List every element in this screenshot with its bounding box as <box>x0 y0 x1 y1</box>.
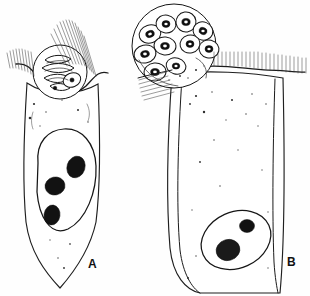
chromatin-body <box>240 220 255 233</box>
panel-a-label: A <box>88 257 97 271</box>
merozoite-core <box>53 86 57 90</box>
panel-b-label: B <box>287 255 296 269</box>
line-drawing-canvas: A <box>0 0 310 296</box>
merozoite-core <box>70 78 74 82</box>
figure-plate: A <box>0 0 310 296</box>
